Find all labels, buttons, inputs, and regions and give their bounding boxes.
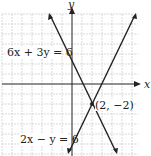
- x-axis-label: x: [144, 78, 151, 91]
- graph: x y 6x + 3y = 6 2x − y = 6 (2, −2): [0, 0, 151, 156]
- point-label: (2, −2): [95, 99, 134, 112]
- y-axis-label: y: [67, 0, 75, 11]
- intersection-point: [90, 102, 94, 106]
- line2-label: 2x − y = 6: [20, 133, 79, 146]
- arrow-icon: [113, 148, 118, 154]
- x-axis-arrow-icon: [134, 81, 141, 87]
- line1-label: 6x + 3y = 6: [7, 46, 73, 59]
- arrow-icon: [67, 148, 72, 154]
